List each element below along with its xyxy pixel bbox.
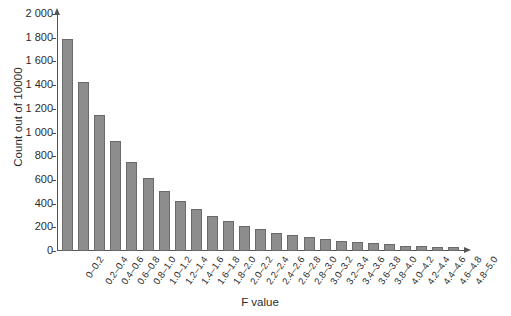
y-axis-tick-mark — [52, 109, 56, 110]
x-axis-label: F value — [190, 296, 330, 308]
bar — [336, 241, 347, 251]
y-axis-tick-mark — [52, 204, 56, 205]
bar — [320, 239, 331, 251]
y-axis-tick-label: 2 000 — [7, 7, 53, 19]
y-axis-tick-label: 1 400 — [7, 78, 53, 90]
y-axis-tick-label: 1 200 — [7, 102, 53, 114]
y-axis-tick-label: 400 — [7, 197, 53, 209]
y-axis-tick-label: 1 800 — [7, 31, 53, 43]
plot-area — [58, 14, 466, 251]
bar — [287, 235, 298, 251]
y-axis-tick-mark — [52, 38, 56, 39]
y-axis-tick-mark — [52, 156, 56, 157]
y-axis-tick-label: 1 600 — [7, 54, 53, 66]
bar — [175, 201, 186, 251]
bar — [271, 233, 282, 251]
y-axis-tick-mark — [52, 133, 56, 134]
y-axis-tick-mark — [52, 85, 56, 86]
y-axis-tick-labels: 02004006008001 0001 2001 4001 6001 8002 … — [0, 0, 53, 316]
bar — [223, 221, 234, 251]
bar — [368, 243, 379, 251]
y-axis-tick-mark — [52, 251, 56, 252]
y-axis-tick-label: 600 — [7, 173, 53, 185]
y-axis-tick-mark — [52, 61, 56, 62]
bar-chart-figure: Count out of 10000 02004006008001 0001 2… — [0, 0, 511, 316]
bar — [143, 178, 154, 251]
bar — [110, 141, 121, 251]
bar — [304, 237, 315, 251]
bar — [207, 216, 218, 251]
y-axis-tick-mark — [52, 227, 56, 228]
y-axis-tick-label: 0 — [7, 244, 53, 256]
bar — [126, 162, 137, 251]
bar — [255, 229, 266, 251]
y-axis-tick-label: 200 — [7, 220, 53, 232]
bar — [191, 209, 202, 251]
bar — [94, 115, 105, 251]
bar — [159, 191, 170, 251]
x-axis-tick-label: 0–0.2 — [83, 254, 106, 280]
y-axis-tick-mark — [52, 180, 56, 181]
y-axis-tick-label: 800 — [7, 149, 53, 161]
y-axis-tick-label: 1 000 — [7, 126, 53, 138]
bar — [62, 39, 73, 251]
bar — [352, 242, 363, 251]
bar — [78, 82, 89, 251]
bar — [239, 226, 250, 251]
